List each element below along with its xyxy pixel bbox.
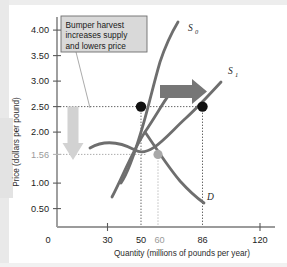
x-tick-label-86: 86 [197, 235, 207, 245]
y-tick-label-1-00: 1.00 [31, 178, 49, 188]
annotation-line-1: Bumper harvest [66, 20, 125, 30]
figure-root: 4.00 3.50 3.00 2.50 2.00 1.56 1.00 0.50 … [0, 0, 287, 267]
y-axis-tick-labels: 4.00 3.50 3.00 2.50 2.00 1.56 1.00 0.50 [31, 25, 49, 214]
annotation-line-2: increases supply [66, 30, 129, 40]
y-tick-label-4-00: 4.00 [31, 25, 49, 35]
demand-label: D [206, 192, 214, 202]
y-tick-label-2-00: 2.00 [31, 127, 49, 137]
annotation-callout: Bumper harvest increases supply and lowe… [61, 16, 147, 52]
equilibrium-new-marker [153, 150, 162, 159]
x-axis-tick-labels: 0 30 50 60 86 120 [45, 235, 267, 245]
y-tick-label-0-50: 0.50 [31, 204, 49, 214]
curve-labels: S 0 S 1 D [188, 23, 238, 202]
x-tick-label-0: 0 [45, 235, 50, 245]
x-tick-label-60: 60 [154, 235, 164, 245]
x-tick-label-50: 50 [136, 235, 146, 245]
supply-shift-arrow [160, 79, 207, 104]
equilibrium-shifted-marker [197, 101, 207, 111]
x-axis-title: Quantity (millions of pounds per year) [114, 249, 250, 258]
y-axis-title: Price (dollars per pound) [12, 97, 21, 187]
supply-s0-label: S [188, 23, 193, 33]
x-tick-label-120: 120 [252, 235, 267, 245]
equilibrium-original-marker [136, 101, 146, 111]
demand-curve-lower [145, 132, 204, 203]
supply-demand-chart: 4.00 3.50 3.00 2.50 2.00 1.56 1.00 0.50 … [0, 0, 287, 267]
y-tick-label-2-50: 2.50 [31, 102, 49, 112]
y-tick-label-1-56: 1.56 [31, 150, 49, 160]
annotation-leader-line [76, 52, 90, 108]
supply-s0-label-subscript: 0 [195, 28, 199, 35]
supply-s1-label: S [228, 66, 233, 76]
y-tick-label-3-50: 3.50 [31, 51, 49, 61]
x-tick-label-30: 30 [102, 235, 112, 245]
annotation-line-3: and lowers price [66, 41, 127, 51]
price-fall-arrow [63, 107, 84, 160]
supply-s1-label-subscript: 1 [235, 71, 238, 78]
y-tick-label-3-00: 3.00 [31, 76, 49, 86]
